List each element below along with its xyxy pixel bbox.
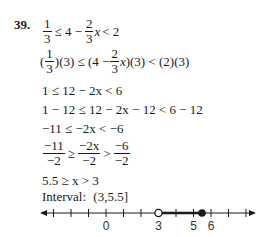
tick-label: 5 <box>190 219 197 233</box>
right-arrow-icon <box>249 210 256 216</box>
tick-label: 3 <box>155 219 162 233</box>
open-endpoint <box>155 209 162 216</box>
left-arrow-icon <box>40 210 47 216</box>
number-line: 0356 <box>0 0 270 237</box>
closed-endpoint <box>198 209 206 217</box>
tick-label: 0 <box>103 219 110 233</box>
tick-label: 6 <box>208 219 215 233</box>
